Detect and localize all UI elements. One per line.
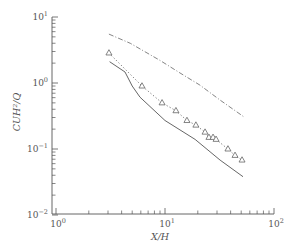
triangle-marker [232,152,238,157]
triangle-marker [202,129,208,134]
triangle-marker [159,100,165,105]
triangle-marker [239,157,245,162]
series-line [110,62,243,177]
y-tick-label: 10−1 [27,142,48,154]
triangle-marker [106,50,112,55]
triangle-marker [139,83,145,88]
chart: 10−210−1100101100101102 X/H CUH²/Q [0,0,296,251]
x-tick-label: 101 [159,217,175,229]
y-tick-label: 10−2 [27,208,48,220]
tick-labels: 10−210−1100101100101102 [27,10,284,229]
series-line [109,34,245,117]
axes [52,17,274,215]
y-tick-label: 101 [32,10,48,22]
series-line [109,53,242,160]
y-tick-label: 100 [32,76,48,88]
x-tick-label: 100 [50,217,66,229]
x-axis-label: X/H [150,231,170,242]
y-axis-label: CUH²/Q [11,93,22,132]
plot-series [106,34,245,177]
triangle-marker [193,122,199,127]
triangle-marker [225,146,231,151]
triangle-marker [173,107,179,112]
triangle-marker [184,117,190,122]
x-tick-label: 102 [268,217,284,229]
